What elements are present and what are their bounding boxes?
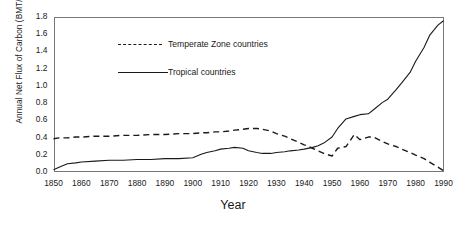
legend-swatch-2 [118,72,168,73]
data-series-layer [0,0,466,228]
chart-container: Annual Net Flux of Carbon (BMT/yr) 0.00.… [0,0,466,228]
legend-label-1: Temperate Zone countries [168,39,268,49]
x-axis-title: Year [0,198,466,212]
legend-swatch-1 [118,44,162,45]
legend-label-2: Tropical countries [168,67,236,77]
series-line-1 [54,128,444,170]
x-tick-label: 1990 [424,179,464,188]
